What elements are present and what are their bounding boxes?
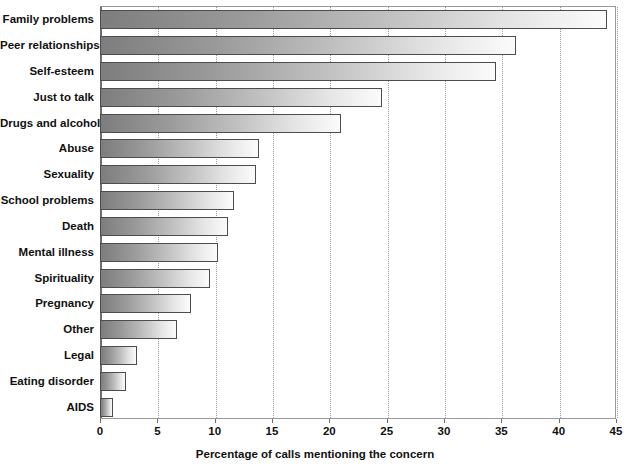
bar-spirituality [100,269,210,288]
x-tick-mark [616,419,617,423]
bar-row [100,114,616,133]
bar-row [100,36,616,55]
x-axis-title: Percentage of calls mentioning the conce… [0,448,630,460]
category-label: Other [0,320,94,339]
x-tick-label: 5 [154,425,160,437]
bar-mental-illness [100,243,218,262]
category-label: Abuse [0,139,94,158]
x-tick-label: 30 [438,425,451,437]
category-label: School problems [0,191,94,210]
bar-row [100,294,616,313]
bar-row [100,269,616,288]
x-tick-label: 35 [495,425,508,437]
bar-chart: Family problemsPeer relationshipsSelf-es… [0,0,630,468]
bar-sexuality [100,165,256,184]
x-tick-mark [501,419,502,423]
x-axis: 051015202530354045 [100,419,616,449]
x-tick-label: 0 [97,425,103,437]
bar-row [100,10,616,29]
bar-row [100,372,616,391]
bar-school-problems [100,191,234,210]
bar-aids [100,398,113,417]
category-label: Spirituality [0,269,94,288]
bar-death [100,217,228,236]
bar-peer-relationships [100,36,516,55]
bar-row [100,165,616,184]
x-tick-mark [559,419,560,423]
bar-family-problems [100,10,607,29]
x-tick-mark [272,419,273,423]
x-tick-label: 40 [552,425,565,437]
bar-legal [100,346,137,365]
bar-self-esteem [100,62,496,81]
x-tick-label: 25 [380,425,393,437]
bars-layer [100,6,616,419]
bar-just-to-talk [100,88,382,107]
category-label: AIDS [0,398,94,417]
category-label: Pregnancy [0,294,94,313]
x-tick-mark [100,419,101,423]
x-tick-mark [329,419,330,423]
x-tick-mark [157,419,158,423]
category-label: Family problems [0,10,94,29]
category-label: Legal [0,346,94,365]
bar-drugs-and-alcohol [100,114,341,133]
gridline-45 [617,7,618,418]
category-label: Drugs and alcohol [0,114,94,133]
x-tick-label: 15 [266,425,279,437]
x-tick-mark [215,419,216,423]
bar-row [100,320,616,339]
x-tick-label: 20 [323,425,336,437]
bar-row [100,62,616,81]
category-labels: Family problemsPeer relationshipsSelf-es… [0,6,94,419]
category-label: Eating disorder [0,372,94,391]
bar-row [100,217,616,236]
category-label: Sexuality [0,165,94,184]
x-tick-mark [387,419,388,423]
bar-eating-disorder [100,372,126,391]
x-tick-mark [444,419,445,423]
bar-row [100,139,616,158]
bar-abuse [100,139,259,158]
category-label: Just to talk [0,88,94,107]
category-label: Peer relationships [0,36,94,55]
bar-other [100,320,177,339]
bar-row [100,191,616,210]
x-tick-label: 45 [610,425,623,437]
bar-row [100,346,616,365]
category-label: Self-esteem [0,62,94,81]
category-label: Mental illness [0,243,94,262]
bar-row [100,88,616,107]
x-tick-label: 10 [208,425,221,437]
bar-row [100,243,616,262]
bar-row [100,398,616,417]
bar-pregnancy [100,294,191,313]
category-label: Death [0,217,94,236]
